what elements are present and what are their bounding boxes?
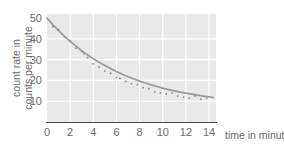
x-axis-title: time in minutes — [225, 129, 284, 141]
data-point — [177, 95, 179, 97]
data-point — [116, 76, 118, 78]
plot-background — [47, 14, 216, 122]
data-point — [104, 70, 106, 72]
data-point — [194, 95, 196, 97]
data-point — [148, 88, 150, 90]
data-point — [165, 93, 167, 95]
data-point — [75, 47, 77, 49]
data-point — [69, 40, 71, 42]
data-point — [125, 81, 127, 83]
count-rate-vs-time-chart: 02468101214 1020304050 time in minutes c… — [0, 0, 284, 144]
y-tick-label: 50 — [30, 12, 42, 24]
data-point — [92, 63, 94, 65]
data-point — [98, 66, 100, 68]
data-point — [154, 91, 156, 93]
data-point — [87, 57, 89, 59]
x-tick-label: 2 — [67, 126, 73, 138]
y-axis-title-line1: count rate in — [10, 39, 22, 97]
x-tick-label: 0 — [44, 126, 50, 138]
data-point — [142, 87, 144, 89]
data-point — [188, 97, 190, 99]
data-point — [81, 50, 83, 52]
x-tick-label: 6 — [113, 126, 119, 138]
x-tick-label: 14 — [203, 126, 215, 138]
data-point — [58, 29, 60, 31]
data-point — [206, 97, 208, 99]
x-tick-label: 8 — [137, 126, 143, 138]
y-axis-title-line2: counts per minute — [22, 26, 34, 110]
x-tick-label: 10 — [157, 126, 169, 138]
data-point — [52, 26, 54, 28]
x-tick-label: 12 — [180, 126, 192, 138]
data-point — [159, 92, 161, 94]
x-tick-label: 4 — [90, 126, 96, 138]
decay-chart-figure: 02468101214 1020304050 time in minutes c… — [0, 0, 284, 144]
data-point — [119, 77, 121, 79]
x-tick-labels: 02468101214 — [44, 126, 215, 138]
data-point — [131, 83, 133, 85]
data-point — [136, 84, 138, 86]
data-point — [171, 92, 173, 94]
data-point — [200, 98, 202, 100]
data-point — [63, 36, 65, 38]
data-point — [83, 53, 85, 55]
data-point — [110, 72, 112, 74]
data-point — [183, 96, 185, 98]
